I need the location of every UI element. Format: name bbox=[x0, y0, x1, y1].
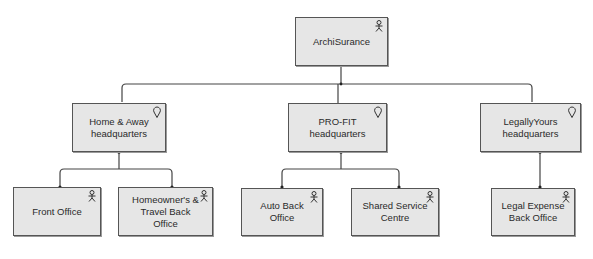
node-pro-fit-hq[interactable]: PRO-FIT headquarters bbox=[288, 103, 387, 152]
location-icon bbox=[373, 106, 383, 118]
actor-icon bbox=[425, 191, 435, 203]
actor-icon bbox=[309, 191, 319, 203]
node-home-away-hq[interactable]: Home & Away headquarters bbox=[72, 103, 166, 152]
node-label: Home & Away headquarters bbox=[73, 116, 165, 140]
node-label: Legal Expense Back Office bbox=[492, 200, 574, 224]
actor-icon bbox=[561, 191, 571, 203]
node-label: Shared Service Centre bbox=[352, 200, 438, 224]
org-diagram: ArchiSurance Home & Away headquarters PR… bbox=[0, 0, 593, 259]
node-legallyyours-hq[interactable]: LegallyYours headquarters bbox=[480, 103, 581, 152]
actor-icon bbox=[87, 190, 97, 202]
node-label: PRO-FIT headquarters bbox=[289, 116, 386, 140]
node-shared-service-centre[interactable]: Shared Service Centre bbox=[351, 188, 439, 236]
node-label: LegallyYours headquarters bbox=[481, 116, 580, 140]
node-label: Front Office bbox=[24, 206, 89, 218]
node-legal-expense-back-office[interactable]: Legal Expense Back Office bbox=[491, 188, 575, 236]
node-label: ArchiSurance bbox=[305, 36, 378, 48]
node-auto-back-office[interactable]: Auto Back Office bbox=[241, 188, 323, 236]
location-icon bbox=[567, 106, 577, 118]
actor-icon bbox=[199, 190, 209, 202]
node-front-office[interactable]: Front Office bbox=[13, 187, 101, 236]
actor-icon bbox=[374, 20, 384, 32]
location-icon bbox=[152, 106, 162, 118]
node-label: Auto Back Office bbox=[242, 200, 322, 224]
node-homeowners-travel-back-office[interactable]: Homeowner's & Travel Back Office bbox=[118, 187, 213, 236]
node-archisurance[interactable]: ArchiSurance bbox=[295, 17, 388, 66]
